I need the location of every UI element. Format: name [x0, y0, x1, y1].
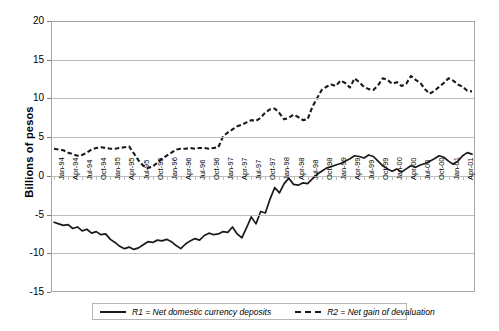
- x-axis-tick-jan-94: Jan-94: [57, 157, 66, 180]
- x-tickmark: [54, 176, 55, 180]
- x-axis-tick-apr-97: Apr-97: [240, 157, 249, 180]
- x-axis-tick-jan-98: Jan-98: [282, 157, 291, 180]
- x-axis-tick-jan-95: Jan-95: [113, 157, 122, 180]
- x-axis-tick-oct-98: Oct-98: [325, 157, 334, 180]
- x-tickmark: [350, 176, 351, 180]
- x-tickmark: [139, 176, 140, 180]
- x-axis-tick-oct-00: Oct-00: [437, 157, 446, 180]
- x-axis-tick-jan-99: Jan-99: [339, 157, 348, 180]
- x-tickmark: [82, 176, 83, 180]
- x-tickmark: [209, 176, 210, 180]
- x-axis-tick-apr-00: Apr-00: [409, 157, 418, 180]
- x-axis-tick-jul-95: Jul-95: [142, 159, 151, 179]
- x-tickmark: [124, 176, 125, 180]
- tickmark: [47, 292, 51, 293]
- x-tickmark: [223, 176, 224, 180]
- x-tickmark: [308, 176, 309, 180]
- legend-label-r1: R1 = Net domestic currency deposits: [132, 307, 271, 317]
- y-axis-tick-neg5: -5: [14, 209, 44, 220]
- x-tickmark: [110, 176, 111, 180]
- legend-swatch-r1: [100, 311, 126, 313]
- x-axis-tick-apr-01: Apr-01: [466, 157, 475, 180]
- x-axis-tick-oct-96: Oct-96: [212, 157, 221, 180]
- y-axis-tick-neg10: -10: [14, 247, 44, 258]
- x-tickmark: [378, 176, 379, 180]
- x-axis-tick-apr-99: Apr-99: [353, 157, 362, 180]
- x-axis-tick-apr-98: Apr-98: [297, 157, 306, 180]
- x-axis-tick-jul-99: Jul-99: [367, 159, 376, 179]
- x-tickmark: [279, 176, 280, 180]
- x-axis-tick-jan-97: Jan-97: [226, 157, 235, 180]
- y-axis-tick-20: 20: [14, 15, 44, 26]
- x-tickmark: [336, 176, 337, 180]
- x-axis-tick-jan-01: Jan-01: [452, 157, 461, 180]
- x-tickmark: [322, 176, 323, 180]
- y-axis-tick-5: 5: [14, 131, 44, 142]
- x-axis-tick-jul-96: Jul-96: [198, 159, 207, 179]
- x-axis-tick-jul-98: Jul-98: [311, 159, 320, 179]
- legend-swatch-r2: [295, 311, 321, 313]
- y-axis-tick-0: 0: [14, 170, 44, 181]
- x-axis-tick-oct-97: Oct-97: [268, 157, 277, 180]
- x-tickmark: [96, 176, 97, 180]
- x-axis-tick-jul-94: Jul-94: [85, 159, 94, 179]
- x-tickmark: [364, 176, 365, 180]
- x-axis-tick-apr-94: Apr-94: [71, 157, 80, 180]
- y-axis-tick-neg15: -15: [14, 286, 44, 297]
- x-tickmark: [251, 176, 252, 180]
- x-tickmark: [195, 176, 196, 180]
- legend: R1 = Net domestic currency deposits R2 =…: [92, 303, 407, 320]
- x-tickmark: [181, 176, 182, 180]
- y-axis-tick-10: 10: [14, 92, 44, 103]
- x-tickmark: [449, 176, 450, 180]
- x-tickmark: [265, 176, 266, 180]
- x-tickmark: [392, 176, 393, 180]
- x-axis-tick-oct-99: Oct-99: [381, 157, 390, 180]
- x-tickmark: [420, 176, 421, 180]
- x-axis-tick-jul-97: Jul-97: [254, 159, 263, 179]
- legend-label-r2: R2 = Net gain of devaluation: [327, 307, 435, 317]
- x-tickmark: [167, 176, 168, 180]
- x-tickmark: [237, 176, 238, 180]
- x-axis-tick-oct-94: Oct-94: [99, 157, 108, 180]
- chart-container: Billions of pesos 20151050-5-10-15 Jan-9…: [0, 0, 499, 331]
- y-axis-tick-15: 15: [14, 54, 44, 65]
- x-tickmark: [463, 176, 464, 180]
- x-tickmark: [68, 176, 69, 180]
- x-axis-tick-apr-96: Apr-96: [184, 157, 193, 180]
- x-axis-tick-jan-00: Jan-00: [395, 157, 404, 180]
- x-axis-tick-jan-96: Jan-96: [170, 157, 179, 180]
- x-tickmark: [406, 176, 407, 180]
- x-tickmark: [294, 176, 295, 180]
- x-tickmark: [434, 176, 435, 180]
- x-tickmark: [153, 176, 154, 180]
- x-axis-tick-jul-00: Jul-00: [423, 159, 432, 179]
- x-axis-tick-apr-95: Apr-95: [127, 157, 136, 180]
- x-axis-tick-oct-95: Oct-95: [156, 157, 165, 180]
